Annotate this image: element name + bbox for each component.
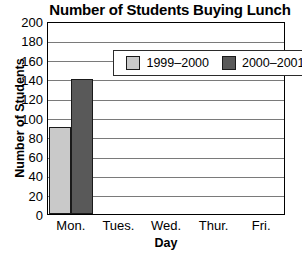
legend-entry: 2000–2001 [222, 56, 302, 70]
y-axis-tick-label: 20 [0, 189, 43, 202]
y-axis-tick-label: 80 [0, 131, 43, 144]
legend-swatch-icon [222, 56, 236, 70]
x-axis-title: Day [47, 236, 285, 250]
legend-label: 2000–2001 [242, 57, 302, 70]
plot-area: 1999–20002000–2001 [47, 22, 285, 215]
y-axis-tick-label: 160 [0, 54, 43, 67]
y-axis-tick-label: 120 [0, 93, 43, 106]
y-axis-tick-label: 100 [0, 112, 43, 125]
x-axis-tick-label: Tues. [102, 218, 134, 233]
bar-chart: Number of Students Buying Lunch Number o… [0, 0, 302, 258]
y-axis-tick-label: 40 [0, 170, 43, 183]
x-axis-tick-labels: Mon.Tues.Wed.Thur.Fri. [47, 218, 285, 236]
legend-swatch-icon [126, 56, 140, 70]
bar [49, 127, 71, 214]
legend-label: 1999–2000 [146, 57, 209, 70]
x-axis-tick-label: Wed. [151, 218, 181, 233]
y-axis-tick-label: 60 [0, 151, 43, 164]
legend-entry: 1999–2000 [126, 56, 209, 70]
chart-title: Number of Students Buying Lunch [38, 1, 302, 18]
x-axis-tick-label: Thur. [199, 218, 229, 233]
gridline [48, 42, 284, 43]
y-axis-tick-label: 180 [0, 35, 43, 48]
y-axis-tick-label: 0 [0, 209, 43, 222]
y-axis-tick-label: 200 [0, 16, 43, 29]
y-axis-tick-label: 140 [0, 73, 43, 86]
x-axis-tick-label: Mon. [56, 218, 85, 233]
bar [71, 79, 93, 214]
x-axis-tick-label: Fri. [252, 218, 271, 233]
y-axis-tick-labels: 200180160140120100806040200 [0, 22, 43, 215]
chart-legend: 1999–20002000–2001 [113, 50, 302, 76]
